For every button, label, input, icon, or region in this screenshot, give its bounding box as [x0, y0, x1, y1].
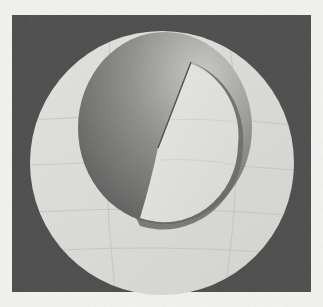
- rendered-sphere-figure: [0, 0, 323, 307]
